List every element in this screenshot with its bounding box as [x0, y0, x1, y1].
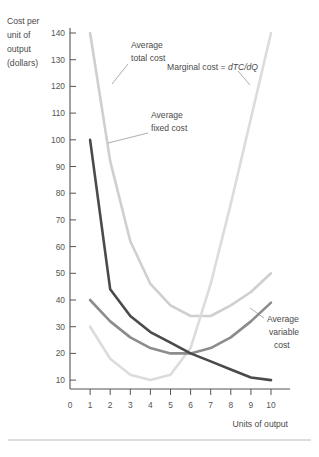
- avc-label-line-2: variable: [269, 327, 299, 337]
- mc-label: Marginal cost = dTC/dQ: [167, 62, 258, 72]
- x-tick-label-3: 3: [128, 400, 133, 410]
- x-tick-label-2: 2: [108, 400, 113, 410]
- curve-average-variable-cost: [90, 300, 271, 353]
- annotation-average-fixed-cost: Average fixed cost: [151, 110, 188, 133]
- avc-label-line-3: cost: [274, 340, 290, 350]
- x-tick-label-4: 4: [148, 400, 153, 410]
- y-axis-ticks: [70, 33, 76, 380]
- afc-label-line-1: Average: [151, 110, 183, 120]
- y-tick-label-140: 140: [51, 28, 65, 38]
- y-tick-label-60: 60: [56, 242, 66, 252]
- mc-label-formula: dTC/dQ: [228, 62, 258, 72]
- annotation-average-total-cost: Average total cost: [131, 40, 166, 63]
- y-tick-label-130: 130: [51, 55, 65, 65]
- cost-curves-chart: Cost per unit of output (dollars) 140 13…: [0, 0, 319, 457]
- atc-leader-line: [112, 64, 128, 84]
- y-tick-label-20: 20: [56, 348, 66, 358]
- y-axis-title-line-1: Cost per: [7, 16, 40, 26]
- y-tick-label-30: 30: [56, 322, 66, 332]
- annotation-average-variable-cost: Average variable cost: [267, 314, 299, 350]
- y-tick-label-40: 40: [56, 295, 66, 305]
- x-tick-label-0: 0: [68, 400, 73, 410]
- y-tick-label-70: 70: [56, 215, 66, 225]
- y-tick-label-120: 120: [51, 81, 65, 91]
- x-axis-ticks: [90, 389, 271, 395]
- x-tick-label-5: 5: [168, 400, 173, 410]
- x-tick-label-8: 8: [228, 400, 233, 410]
- y-tick-label-90: 90: [56, 162, 66, 172]
- x-tick-label-1: 1: [88, 400, 93, 410]
- y-axis-title-line-4: (dollars): [7, 58, 38, 68]
- y-tick-label-100: 100: [51, 135, 65, 145]
- x-tick-label-10: 10: [266, 400, 276, 410]
- y-axis-title: Cost per unit of output (dollars): [7, 16, 40, 68]
- mc-leader-line: [238, 71, 250, 85]
- x-tick-label-9: 9: [249, 400, 254, 410]
- annotation-marginal-cost: Marginal cost = dTC/dQ: [167, 62, 258, 72]
- y-axis-title-line-2: unit of: [7, 30, 31, 40]
- curve-average-total-cost: [90, 33, 271, 316]
- x-tick-label-7: 7: [208, 400, 213, 410]
- y-tick-label-50: 50: [56, 268, 66, 278]
- y-axis-tick-labels: 140 130 120 110 100 90 80 70 60 50 40 30…: [51, 28, 65, 385]
- y-tick-label-80: 80: [56, 188, 66, 198]
- y-tick-label-110: 110: [52, 108, 66, 118]
- atc-label-line-1: Average: [131, 40, 163, 50]
- x-tick-label-6: 6: [188, 400, 193, 410]
- afc-leader-line: [108, 133, 148, 143]
- mc-label-plain: Marginal cost =: [167, 62, 228, 72]
- atc-label-line-2: total cost: [131, 53, 166, 63]
- x-axis-tick-labels: 0 1 2 3 4 5 6 7 8 9 10: [68, 400, 276, 410]
- curves-layer: [90, 33, 271, 380]
- y-axis-title-line-3: output: [7, 44, 32, 54]
- curve-average-fixed-cost: [90, 140, 271, 380]
- x-axis-title: Units of output: [233, 419, 289, 429]
- afc-label-line-2: fixed cost: [151, 123, 188, 133]
- avc-label-line-1: Average: [267, 314, 299, 324]
- y-tick-label-10: 10: [56, 375, 66, 385]
